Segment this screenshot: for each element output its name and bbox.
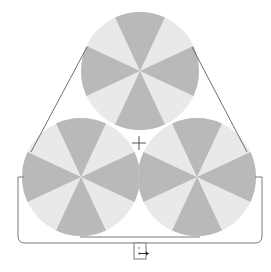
pinwheel-diagram	[0, 0, 271, 272]
connector-box-icon[interactable]	[134, 243, 149, 259]
crosshair-icon	[132, 136, 146, 150]
pinwheel-circle-top	[81, 12, 199, 130]
pinwheel-circles	[22, 12, 256, 236]
